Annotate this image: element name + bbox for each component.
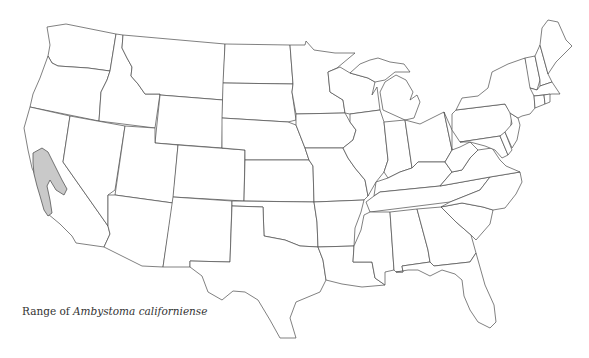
state-ohio	[405, 112, 452, 168]
state-wyoming	[155, 95, 223, 148]
state-arizona	[104, 195, 173, 267]
state-kansas	[244, 160, 314, 202]
state-michigan-lower	[380, 75, 420, 120]
state-connecticut	[534, 95, 545, 108]
state-iowa	[296, 113, 356, 148]
map-caption: Range of Ambystoma californiense	[22, 305, 207, 317]
caption-prefix: Range of	[22, 305, 70, 317]
state-north-dakota	[223, 44, 293, 84]
state-south-dakota	[222, 83, 296, 122]
state-colorado	[173, 145, 245, 201]
state-new-mexico	[163, 197, 232, 267]
state-rhode-island	[544, 94, 550, 104]
caption-species-name: Ambystoma californiense	[73, 305, 207, 317]
state-washington	[47, 24, 116, 71]
